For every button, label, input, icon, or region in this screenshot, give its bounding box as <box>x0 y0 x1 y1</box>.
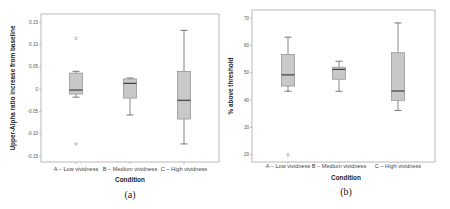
y-tick-label: 20 <box>244 152 250 157</box>
y-tick-label: -0.10 <box>28 131 39 136</box>
x-tick-label: A – Low vividness <box>54 166 99 172</box>
y-tick-label: -0.05 <box>28 109 39 114</box>
box-1 <box>282 37 295 156</box>
iqr-box <box>178 71 191 119</box>
y-axis-title-b: % above threshold <box>227 58 234 115</box>
figure: 0.150.100.050-0.05-0.10-0.15 A – Low viv… <box>0 0 450 209</box>
y-tick-label: 0.15 <box>29 20 38 25</box>
y-tick-label: 50 <box>244 70 250 75</box>
box-3 <box>178 30 191 144</box>
x-tick-label: A – Low vividness <box>266 163 311 169</box>
box-2 <box>333 61 346 91</box>
x-axis-title-a: Condition <box>115 176 145 183</box>
y-tick-label: 0 <box>35 87 38 92</box>
y-tick-label: 0.10 <box>29 42 38 47</box>
caption-a: (a) <box>124 189 135 201</box>
caption-b: (b) <box>340 186 352 198</box>
plot-frame-b <box>252 10 435 162</box>
chart-b: 706050403020 A – Low vividnessB – Medium… <box>227 10 435 198</box>
y-tick-label: 60 <box>244 43 250 48</box>
outlier-point <box>287 153 290 156</box>
iqr-box <box>124 79 137 98</box>
outlier-point <box>75 37 78 40</box>
box-1 <box>70 37 83 145</box>
x-tick-label: C – High vividness <box>161 166 208 172</box>
y-tick-label: 30 <box>244 125 250 130</box>
x-tick-label: B – Medium vividness <box>312 163 367 169</box>
y-tick-label: -0.15 <box>28 154 39 159</box>
iqr-box <box>282 55 295 86</box>
x-tick-label: C – High vividness <box>375 163 422 169</box>
y-tick-label: 0.05 <box>29 64 38 69</box>
y-axis-title-a: Upper-Alpha ratio increase from baseline <box>9 25 17 150</box>
iqr-box <box>70 73 83 94</box>
y-tick-label: 40 <box>244 98 250 103</box>
chart-a: 0.150.100.050-0.05-0.10-0.15 A – Low viv… <box>9 14 219 201</box>
outlier-point <box>75 143 78 146</box>
y-tick-label: 70 <box>244 16 250 21</box>
iqr-box <box>392 53 405 101</box>
x-axis-title-b: Condition <box>331 174 361 181</box>
box-2 <box>124 78 137 115</box>
box-3 <box>392 23 405 110</box>
x-tick-label: B – Medium vividness <box>103 166 158 172</box>
